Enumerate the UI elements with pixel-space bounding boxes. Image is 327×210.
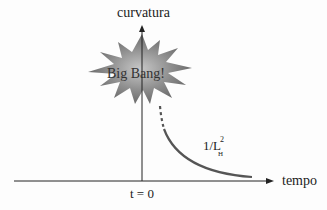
curve-dashed [160,106,164,129]
x-axis-label: tempo [282,173,317,189]
y-axis-label: curvatura [117,5,170,21]
y-axis-arrow-icon [139,25,145,32]
origin-label: t = 0 [130,186,154,202]
big-bang-curvature-diagram: curvatura tempo t = 0 Big Bang! 1/L2H [0,0,327,210]
curve-label: 1/L2H [203,138,223,156]
x-axis-arrow-icon [266,178,274,184]
curve-label-sup: 2 [220,135,224,144]
curve-label-sub: H [218,150,223,158]
diagram-graphics [0,0,327,210]
big-bang-label: Big Bang! [107,66,165,82]
